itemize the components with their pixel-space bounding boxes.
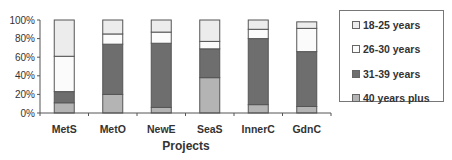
x-tick-label: SeaS [197,123,223,135]
x-tick-label: MetO [100,123,126,135]
legend-item-18-25: 18-25 years [352,19,420,31]
bar-segment [103,44,123,94]
legend-swatch-40-plus [352,94,360,102]
bar-segment [297,28,317,51]
bar-segment [103,20,123,34]
legend-label: 18-25 years [363,19,420,31]
legend: 18-25 years 26-30 years 31-39 years 40 y… [339,10,444,102]
bar-segment [200,78,220,113]
bar-GdnC [297,22,317,113]
y-tick-label: 100% [9,15,35,26]
legend-swatch-18-25 [352,21,360,29]
bar-segment [151,32,171,43]
y-tick-label: 40% [15,70,35,81]
x-tick-label: MetS [52,123,77,135]
x-tick-label: GdnC [292,123,321,135]
legend-label: 31-39 years [363,68,420,80]
y-axis: 0%20%40%60%80%100% [9,15,40,119]
bar-segment [200,41,220,48]
x-tick-label: InnerC [242,123,276,135]
y-tick-label: 0% [21,108,36,119]
bar-segment [54,20,74,56]
x-axis-title: Projects [162,139,210,153]
bar-segment [248,39,268,105]
bar-SeaS [200,20,220,113]
bar-segment [151,107,171,113]
legend-swatch-26-30 [352,45,360,53]
bar-segment [200,20,220,41]
y-tick-label: 80% [15,33,35,44]
bar-segment [151,20,171,32]
bar-segment [151,43,171,107]
bar-segment [54,103,74,113]
bar-segment [297,106,317,113]
x-axis: MetSMetONewESeaSInnerCGdnC [40,113,331,135]
bars [54,20,317,113]
bar-MetO [103,20,123,113]
bar-segment [200,49,220,78]
bar-NewE [151,20,171,113]
bar-segment [248,20,268,29]
legend-item-31-39: 31-39 years [352,68,420,80]
legend-label: 40 years plus [363,92,430,104]
bar-segment [248,105,268,113]
bar-InnerC [248,20,268,113]
bar-segment [103,34,123,44]
legend-label: 26-30 years [363,43,420,55]
bar-segment [103,94,123,113]
x-tick-label: NewE [147,123,176,135]
bar-segment [54,92,74,103]
bar-segment [54,56,74,91]
y-tick-label: 60% [15,52,35,63]
legend-swatch-31-39 [352,70,360,78]
bar-segment [248,29,268,38]
legend-item-26-30: 26-30 years [352,43,420,55]
y-tick-label: 20% [15,89,35,100]
bar-segment [297,52,317,107]
bar-segment [297,22,317,29]
legend-item-40-plus: 40 years plus [352,92,430,104]
bar-MetS [54,20,74,113]
